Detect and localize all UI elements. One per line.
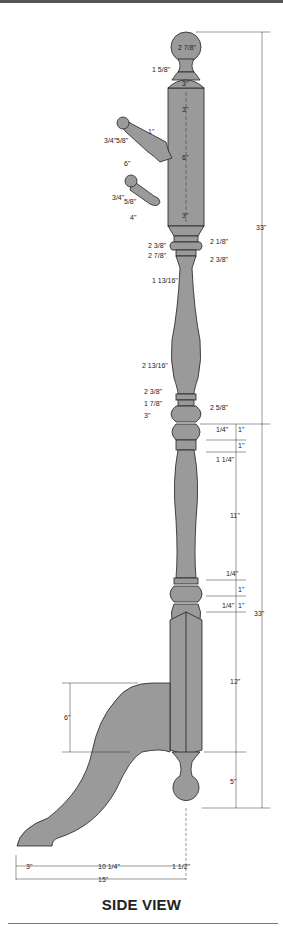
dim-ring-upper-2: 1" xyxy=(238,426,245,433)
dim-collar-right-1: 2 1/8" xyxy=(210,238,229,245)
dim-lower-collar-right: 2 5/8" xyxy=(210,404,229,411)
dim-neck-dia: 1 5/8" xyxy=(152,66,171,73)
dim-lower-total: 33" xyxy=(254,610,265,617)
dim-ring-upper-3: 1" xyxy=(238,442,245,449)
dim-collar-left-1: 2 3/8" xyxy=(148,242,167,249)
bottom-rule xyxy=(8,923,278,924)
dim-post-width: 3" xyxy=(182,80,189,87)
view-title: SIDE VIEW xyxy=(0,896,283,913)
dim-upper-total: 33" xyxy=(256,224,267,231)
lower-spindle xyxy=(174,450,197,578)
dim-ring-upper-1: 1/4" xyxy=(216,426,229,433)
dim-spindle-height: 11" xyxy=(230,512,240,519)
dim-ring-lower-1: 1/4" xyxy=(226,570,239,577)
dim-lower-collar-left-1: 2 3/8" xyxy=(144,388,163,395)
dim-finial-dia: 2 7/8" xyxy=(178,44,197,51)
foot-ball xyxy=(172,752,200,801)
dim-upper-peg-base: 1" xyxy=(148,128,155,135)
dim-lower-peg-w1: 3/4" xyxy=(112,194,125,201)
dim-base-mid: 10 1/4" xyxy=(98,863,120,870)
leg xyxy=(17,683,170,846)
dim-lower-collar-left-2: 1 7/8" xyxy=(144,400,163,407)
dim-leg-rise: 6" xyxy=(64,714,71,721)
dim-upper-peg-length: 6" xyxy=(124,160,131,167)
dim-top-seg: 3" xyxy=(182,106,189,113)
dim-base-total: 15" xyxy=(98,876,109,883)
dim-foot-ball: 5" xyxy=(230,778,237,785)
dim-collar-left-2: 2 7/8" xyxy=(148,252,167,259)
dim-collar-right-2: 2 3/8" xyxy=(210,256,229,263)
coat-rack-side-view-drawing: 2 7/8" 1 5/8" 3" 3" 6" 3" 33" 33" 3/4" 5… xyxy=(0,0,283,943)
dim-ring-lower-4: 1" xyxy=(238,602,245,609)
dim-lower-peg-length: 4" xyxy=(130,214,137,221)
dim-mid-seg: 6" xyxy=(182,154,189,161)
dim-base-right: 1 1/2" xyxy=(172,863,191,870)
dim-ring-lower-3: 1/4" xyxy=(222,602,235,609)
dim-upper-peg-w1: 3/4" xyxy=(104,137,117,144)
dim-lower-bead: 3" xyxy=(144,412,151,419)
dim-ring-lower-2: 1" xyxy=(238,586,245,593)
dim-base-post: 12" xyxy=(230,678,241,685)
dim-waist: 1 13/16" xyxy=(152,277,178,284)
dim-ring-upper-4: 1 1/4" xyxy=(216,456,235,463)
dim-lower-seg: 3" xyxy=(182,212,189,219)
dim-base-left: 3" xyxy=(26,863,33,870)
dim-lower-peg-w2: 5/8" xyxy=(124,198,137,205)
dim-upper-peg-w2: 5/8" xyxy=(116,137,129,144)
dim-bulge: 2 13/16" xyxy=(142,362,168,369)
